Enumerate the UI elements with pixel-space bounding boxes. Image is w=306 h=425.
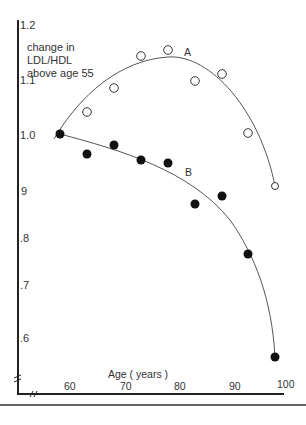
data-point-a	[272, 183, 279, 190]
y-tick-label: .7	[20, 279, 29, 291]
chart: 1.2 1.1 1.0 9 .8 .7 .6 change in LDL/HDL…	[0, 0, 306, 425]
data-point-b	[191, 200, 200, 209]
data-point-a	[164, 46, 173, 55]
data-point-a	[83, 108, 92, 117]
y-tick-label: 1.0	[20, 129, 35, 141]
x-tick-label: 70	[120, 380, 132, 392]
y-tick-label: 1.2	[20, 19, 35, 31]
y-tick-label: .8	[20, 232, 29, 244]
data-point-a	[191, 77, 200, 86]
data-point-b	[271, 353, 280, 362]
series-a-points	[83, 46, 279, 190]
y-tick-label: .6	[20, 332, 29, 344]
data-point-a	[244, 129, 253, 138]
data-point-a	[137, 52, 146, 61]
data-point-b	[56, 130, 65, 139]
y-tick-label: 9	[21, 185, 27, 197]
y-axis-label-line-1: change in	[27, 41, 75, 53]
data-point-b	[218, 192, 227, 201]
y-axis-label-line-3: above age 55	[27, 67, 94, 79]
x-axis-label: Age ( years )	[108, 368, 168, 380]
series-label-b: B	[185, 166, 192, 178]
data-point-b	[164, 159, 173, 168]
data-point-a	[218, 70, 227, 79]
x-tick-label: 90	[229, 380, 241, 392]
series-label-a: A	[184, 46, 191, 58]
data-point-b	[83, 150, 92, 159]
x-tick-label: 60	[64, 380, 76, 392]
data-point-b	[137, 156, 146, 165]
data-point-b	[244, 250, 253, 259]
y-axis-label-line-2: LDL/HDL	[27, 54, 72, 66]
data-point-a	[110, 84, 119, 93]
data-point-b	[110, 141, 119, 150]
x-tick-label: 100	[277, 378, 295, 390]
x-tick-label: 80	[174, 380, 186, 392]
